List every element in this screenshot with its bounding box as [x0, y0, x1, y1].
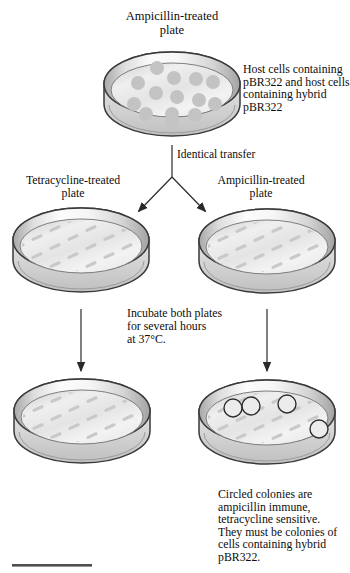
bottom-rule	[12, 564, 92, 567]
plate-ampicillin-incubated	[199, 380, 335, 464]
host-cells-annotation: Host cells containing pBR322 and host ce…	[243, 63, 350, 113]
streaked-bacteria	[208, 222, 326, 272]
plate-tetracycline	[13, 208, 149, 292]
branch-arrow-left	[139, 177, 173, 212]
ampicillin-plate-label: Ampicillin-treated plate	[191, 174, 331, 200]
tetracycline-plate-label: Tetracycline-treated plate	[3, 174, 143, 200]
identical-transfer-label: Identical transfer	[177, 148, 255, 160]
plate-ampicillin-transfer	[199, 209, 335, 293]
diagram-page: Ampicillin-treated plate Host cells cont…	[0, 0, 350, 573]
streaked-bacteria	[22, 221, 140, 271]
plate-tetracycline-incubated	[14, 379, 150, 463]
top-plate-label: Ampicillin-treated plate	[102, 9, 242, 37]
result-annotation: Circled colonies are ampicillin immune, …	[218, 488, 337, 563]
streaked-bacteria	[208, 393, 326, 443]
streaked-bacteria	[23, 392, 141, 442]
incubation-note: Incubate both plates for several hours a…	[127, 307, 222, 346]
plate-initial-ampicillin	[104, 52, 240, 136]
